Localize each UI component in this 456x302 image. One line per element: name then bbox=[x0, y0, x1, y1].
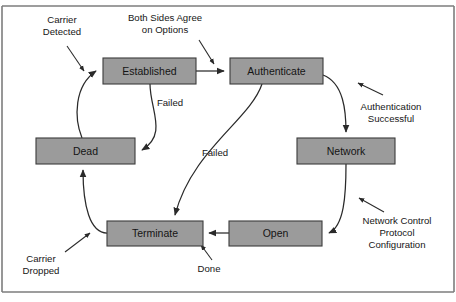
transition-dead-to-established bbox=[77, 71, 96, 138]
annotation-authentication-successful: Authentication Successful bbox=[361, 101, 422, 124]
state-label-authenticate: Authenticate bbox=[247, 65, 306, 77]
annotation-leader-network-control bbox=[359, 198, 384, 212]
annotation-authentication-successful-line-1: Authentication bbox=[361, 101, 422, 112]
annotation-leader-carrier-detected bbox=[67, 46, 84, 71]
state-box-authenticate[interactable]: Authenticate bbox=[230, 58, 323, 84]
annotation-both-sides-agree-on-options: Both Sides Agree on Options bbox=[128, 12, 202, 35]
state-label-established: Established bbox=[122, 65, 176, 77]
annotation-done-line-1: Done bbox=[198, 263, 221, 274]
state-label-network: Network bbox=[327, 145, 366, 157]
annotation-both-sides-agree-line-2: on Options bbox=[142, 24, 189, 35]
annotation-network-control-protocol-configuration: Network Control Protocol Configuration bbox=[363, 215, 432, 250]
state-box-open[interactable]: Open bbox=[229, 221, 322, 246]
annotation-authentication-successful-line-2: Successful bbox=[368, 113, 414, 124]
diagram-canvas: Established Authenticate Dead Network Te… bbox=[0, 0, 456, 302]
annotation-leader-authentication-successful bbox=[358, 83, 383, 95]
annotation-done: Done bbox=[198, 263, 221, 274]
transition-network-to-open bbox=[329, 164, 346, 233]
transition-established-to-dead bbox=[142, 84, 156, 150]
annotation-leader-done bbox=[201, 245, 212, 260]
annotation-carrier-detected-line-1: Carrier bbox=[47, 14, 77, 25]
state-label-open: Open bbox=[263, 227, 289, 239]
annotation-leader-both-sides-agree bbox=[199, 40, 214, 64]
state-box-dead[interactable]: Dead bbox=[36, 138, 135, 164]
state-diagram: Established Authenticate Dead Network Te… bbox=[0, 0, 456, 302]
annotation-carrier-dropped-line-1: Carrier bbox=[26, 253, 56, 264]
annotation-both-sides-agree-line-1: Both Sides Agree bbox=[128, 12, 202, 23]
annotation-carrier-dropped-line-2: Dropped bbox=[23, 265, 60, 276]
annotation-carrier-dropped: Carrier Dropped bbox=[23, 253, 60, 276]
annotation-carrier-detected: Carrier Detected bbox=[43, 14, 81, 37]
state-box-terminate[interactable]: Terminate bbox=[107, 221, 203, 246]
state-label-terminate: Terminate bbox=[132, 227, 178, 239]
edge-label-failed-established-dead: Failed bbox=[157, 97, 183, 108]
annotation-network-control-line-3: Configuration bbox=[368, 239, 425, 250]
state-box-established[interactable]: Established bbox=[103, 58, 196, 84]
annotation-network-control-line-2: Protocol bbox=[379, 227, 414, 238]
state-label-dead: Dead bbox=[73, 145, 98, 157]
annotation-leader-carrier-dropped bbox=[65, 233, 90, 252]
transition-terminate-to-dead bbox=[83, 170, 107, 233]
transition-authenticate-to-network bbox=[323, 75, 346, 132]
annotation-network-control-line-1: Network Control bbox=[363, 215, 432, 226]
annotation-carrier-detected-line-2: Detected bbox=[43, 26, 81, 37]
state-box-network[interactable]: Network bbox=[297, 138, 395, 164]
edge-label-failed-authenticate-terminate: Failed bbox=[202, 147, 228, 158]
